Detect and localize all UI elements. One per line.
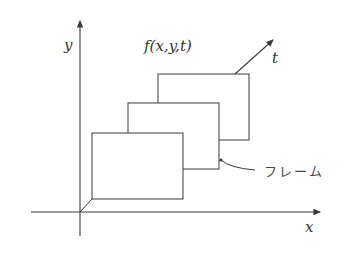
x-axis-label: x: [305, 218, 314, 236]
t-axis: [235, 40, 273, 74]
frame-pointer: [221, 160, 255, 170]
t-axis-label: t: [272, 49, 279, 67]
frame-pointer-dot: [219, 158, 222, 161]
function-label: f(x,y,t): [143, 37, 192, 55]
video-frames-diagram: y x t f(x,y,t) フレーム: [0, 0, 351, 261]
y-axis-label: y: [63, 36, 73, 54]
frame-front: [92, 133, 183, 199]
frame-label: フレーム: [264, 164, 324, 179]
t-axis-base: [80, 199, 92, 212]
